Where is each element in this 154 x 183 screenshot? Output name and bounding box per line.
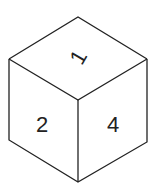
left-face-label: 2	[36, 112, 48, 137]
cube-diagram: 1 2 4	[0, 0, 154, 183]
right-face-label: 4	[107, 112, 119, 137]
